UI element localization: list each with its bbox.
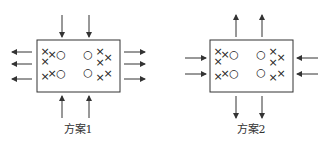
cross-symbol: × (103, 67, 112, 80)
circle-symbol: ○ (229, 67, 239, 80)
circle-symbol: ○ (56, 48, 66, 61)
scheme-2-diagram: ××○×××○○×××○×× (185, 15, 318, 118)
scheme-2-label: 方案2 (237, 122, 266, 136)
cross-symbol: × (276, 67, 285, 80)
cross-symbol: × (276, 51, 285, 64)
circle-symbol: ○ (56, 67, 66, 80)
circle-symbol: ○ (83, 66, 93, 79)
circle-symbol: ○ (83, 48, 93, 61)
cross-symbol: × (103, 51, 112, 64)
circle-symbol: ○ (229, 48, 239, 61)
circle-symbol: ○ (256, 66, 266, 79)
scheme-1-diagram: ××○×××○○×××○×× (12, 15, 145, 118)
diagram-canvas: ××○×××○○×××○×× ××○×××○○×××○×× 方案1 方案2 (0, 0, 327, 142)
scheme-1-label: 方案1 (64, 122, 93, 136)
circle-symbol: ○ (256, 48, 266, 61)
